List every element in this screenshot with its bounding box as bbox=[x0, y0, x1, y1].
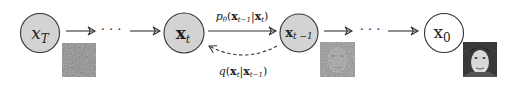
node-label-main: x bbox=[433, 22, 443, 42]
node-label-main: x bbox=[31, 23, 41, 43]
ellipsis-right: · · · bbox=[360, 22, 381, 37]
diffusion-diagram: xT · · · xt pθ(xt−1|xt) q(xt|xt−1) bbox=[0, 0, 513, 86]
partially-denoised-face-image bbox=[320, 42, 355, 77]
label-reverse-process: pθ(xt−1|xt) bbox=[216, 10, 269, 24]
node-x-T: xT bbox=[21, 14, 60, 53]
node-label-sub: t −1 bbox=[293, 31, 313, 41]
noise-image bbox=[62, 43, 96, 77]
node-x-t-minus-1: xt −1 bbox=[280, 14, 318, 52]
node-label-sub: t bbox=[186, 33, 191, 46]
node-label-sub: T bbox=[41, 32, 50, 46]
label-forward-process: q(xt|xt−1) bbox=[219, 65, 267, 79]
node-x-0: x0 bbox=[425, 14, 464, 53]
diagram-canvas: xT · · · xt pθ(xt−1|xt) q(xt|xt−1) bbox=[0, 0, 513, 86]
node-x-t: xt bbox=[164, 13, 204, 53]
clean-face-image bbox=[463, 42, 497, 77]
arrow-forward-process bbox=[209, 46, 277, 55]
node-label-sub: 0 bbox=[443, 31, 451, 45]
ellipsis-left: · · · bbox=[101, 22, 122, 37]
